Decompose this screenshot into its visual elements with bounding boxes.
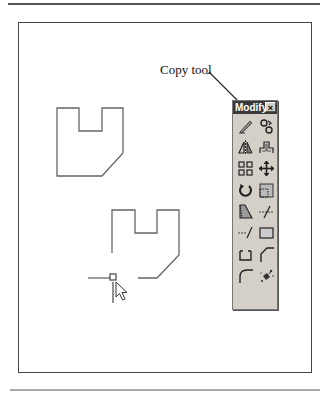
rotate-icon [237, 182, 254, 199]
break-button[interactable] [256, 223, 276, 243]
erase-button[interactable] [235, 116, 255, 136]
toolbar-title: Modify [235, 102, 267, 113]
trim-icon [258, 203, 275, 220]
join-icon [237, 246, 254, 263]
move-icon [258, 160, 275, 177]
offset-icon [258, 139, 275, 156]
extend-icon [237, 224, 254, 241]
toolbar-title-bar[interactable]: Modify × [233, 101, 277, 114]
explode-icon [258, 267, 275, 284]
array-icon [237, 160, 254, 177]
break-icon [258, 224, 275, 241]
copy-icon [258, 118, 275, 135]
bottom-rule [10, 389, 320, 391]
copy-tool-callout: Copy tool [160, 62, 212, 78]
explode-button[interactable] [256, 266, 276, 286]
stretch-icon [237, 203, 254, 220]
eraser-icon [237, 118, 254, 135]
mirror-button[interactable] [235, 137, 255, 157]
extend-button[interactable] [235, 223, 255, 243]
rotate-button[interactable] [235, 180, 255, 200]
chamfer-icon [258, 246, 275, 263]
scale-button[interactable] [256, 180, 276, 200]
move-button[interactable] [256, 159, 276, 179]
array-button[interactable] [235, 159, 255, 179]
offset-button[interactable] [256, 137, 276, 157]
mirror-icon [237, 139, 254, 156]
copy-button[interactable] [256, 116, 276, 136]
cursor-arrow-icon [116, 282, 127, 300]
fillet-icon [237, 267, 254, 284]
join-button[interactable] [235, 244, 255, 264]
scale-icon [258, 182, 275, 199]
modify-toolbar: Modify × [232, 100, 278, 310]
grip-square-icon[interactable] [110, 274, 116, 280]
original-shape[interactable] [57, 108, 123, 176]
chamfer-button[interactable] [256, 244, 276, 264]
drawing-canvas [0, 0, 331, 393]
stretch-button[interactable] [235, 202, 255, 222]
close-button[interactable]: × [265, 102, 276, 112]
copied-shape[interactable] [112, 210, 179, 278]
fillet-button[interactable] [235, 266, 255, 286]
trim-button[interactable] [256, 202, 276, 222]
